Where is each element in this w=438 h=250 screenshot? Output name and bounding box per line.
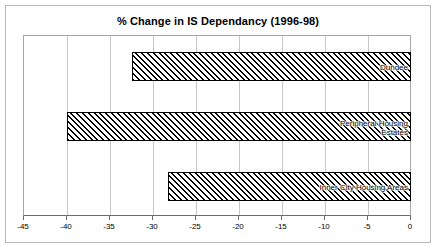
x-axis-tick-label: -25 bbox=[175, 222, 215, 231]
x-axis-tick-label: -20 bbox=[218, 222, 258, 231]
x-axis-tick bbox=[367, 216, 368, 220]
x-axis-tick bbox=[238, 216, 239, 220]
chart-frame: % Change in IS Dependancy (1996-98) Dund… bbox=[5, 5, 431, 243]
bar-label: Peripheral Housing Estates bbox=[340, 119, 408, 137]
x-axis-tick bbox=[195, 216, 196, 220]
x-axis-tick bbox=[152, 216, 153, 220]
bar[interactable]: Peripheral Housing Estates bbox=[67, 112, 411, 141]
bar-label: Inner City Housing Areas bbox=[319, 183, 408, 192]
bar[interactable]: Dundee bbox=[132, 52, 411, 81]
x-axis: -45-40-35-30-25-20-15-10-50 bbox=[23, 216, 411, 238]
x-axis-tick bbox=[23, 216, 24, 220]
x-axis-tick bbox=[410, 216, 411, 220]
x-axis-tick bbox=[281, 216, 282, 220]
x-axis-tick bbox=[66, 216, 67, 220]
chart-title: % Change in IS Dependancy (1996-98) bbox=[6, 15, 430, 27]
x-axis-tick-label: -15 bbox=[261, 222, 301, 231]
x-axis-tick-label: -35 bbox=[89, 222, 129, 231]
x-axis-tick-label: -40 bbox=[46, 222, 86, 231]
x-axis-tick-label: -5 bbox=[347, 222, 387, 231]
x-axis-tick bbox=[324, 216, 325, 220]
x-axis-tick bbox=[109, 216, 110, 220]
x-axis-tick-label: -45 bbox=[3, 222, 43, 231]
x-axis-tick-label: -30 bbox=[132, 222, 172, 231]
x-axis-tick-label: -10 bbox=[304, 222, 344, 231]
bar[interactable]: Inner City Housing Areas bbox=[168, 172, 411, 201]
bar-label: Dundee bbox=[380, 63, 408, 72]
plot-area: DundeePeripheral Housing EstatesInner Ci… bbox=[23, 35, 411, 216]
x-axis-tick-label: 0 bbox=[390, 222, 430, 231]
